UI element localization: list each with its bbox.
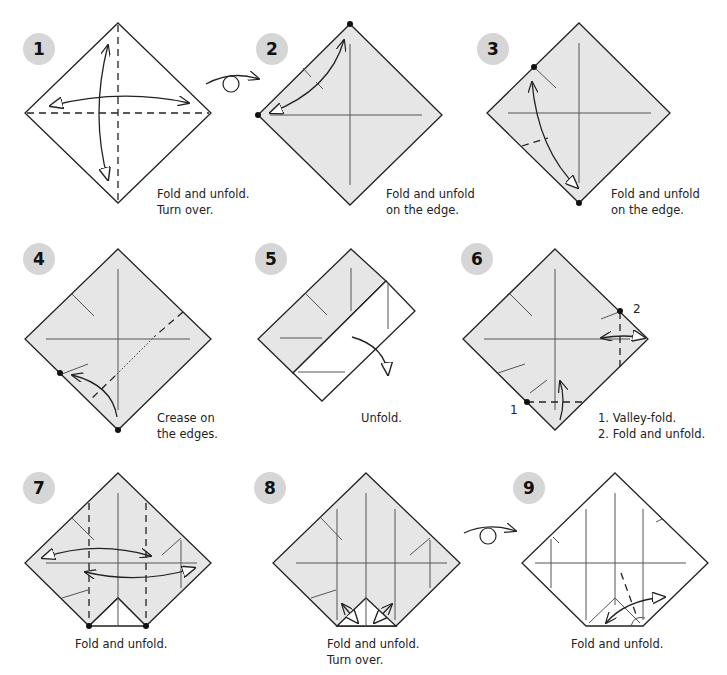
turn-over-icon — [206, 75, 259, 92]
step-6-diagram: 2 1 — [463, 249, 648, 430]
diagram-drawings: 2 1 — [0, 0, 727, 675]
step-7-diagram — [25, 473, 211, 629]
reference-label-1: 1 — [510, 403, 518, 417]
turn-over-icon — [464, 527, 516, 544]
step-4-diagram — [25, 249, 211, 433]
step-5-diagram — [258, 249, 415, 401]
step-9-diagram — [522, 473, 708, 626]
step-3-diagram — [487, 23, 670, 206]
step-8-diagram — [273, 473, 460, 626]
step-1-diagram — [25, 23, 211, 203]
origami-diagram: 1 2 3 4 5 6 7 8 9 Fold and unfold. Turn … — [0, 0, 727, 675]
step-2-diagram — [255, 21, 442, 205]
reference-label-2: 2 — [633, 302, 641, 316]
